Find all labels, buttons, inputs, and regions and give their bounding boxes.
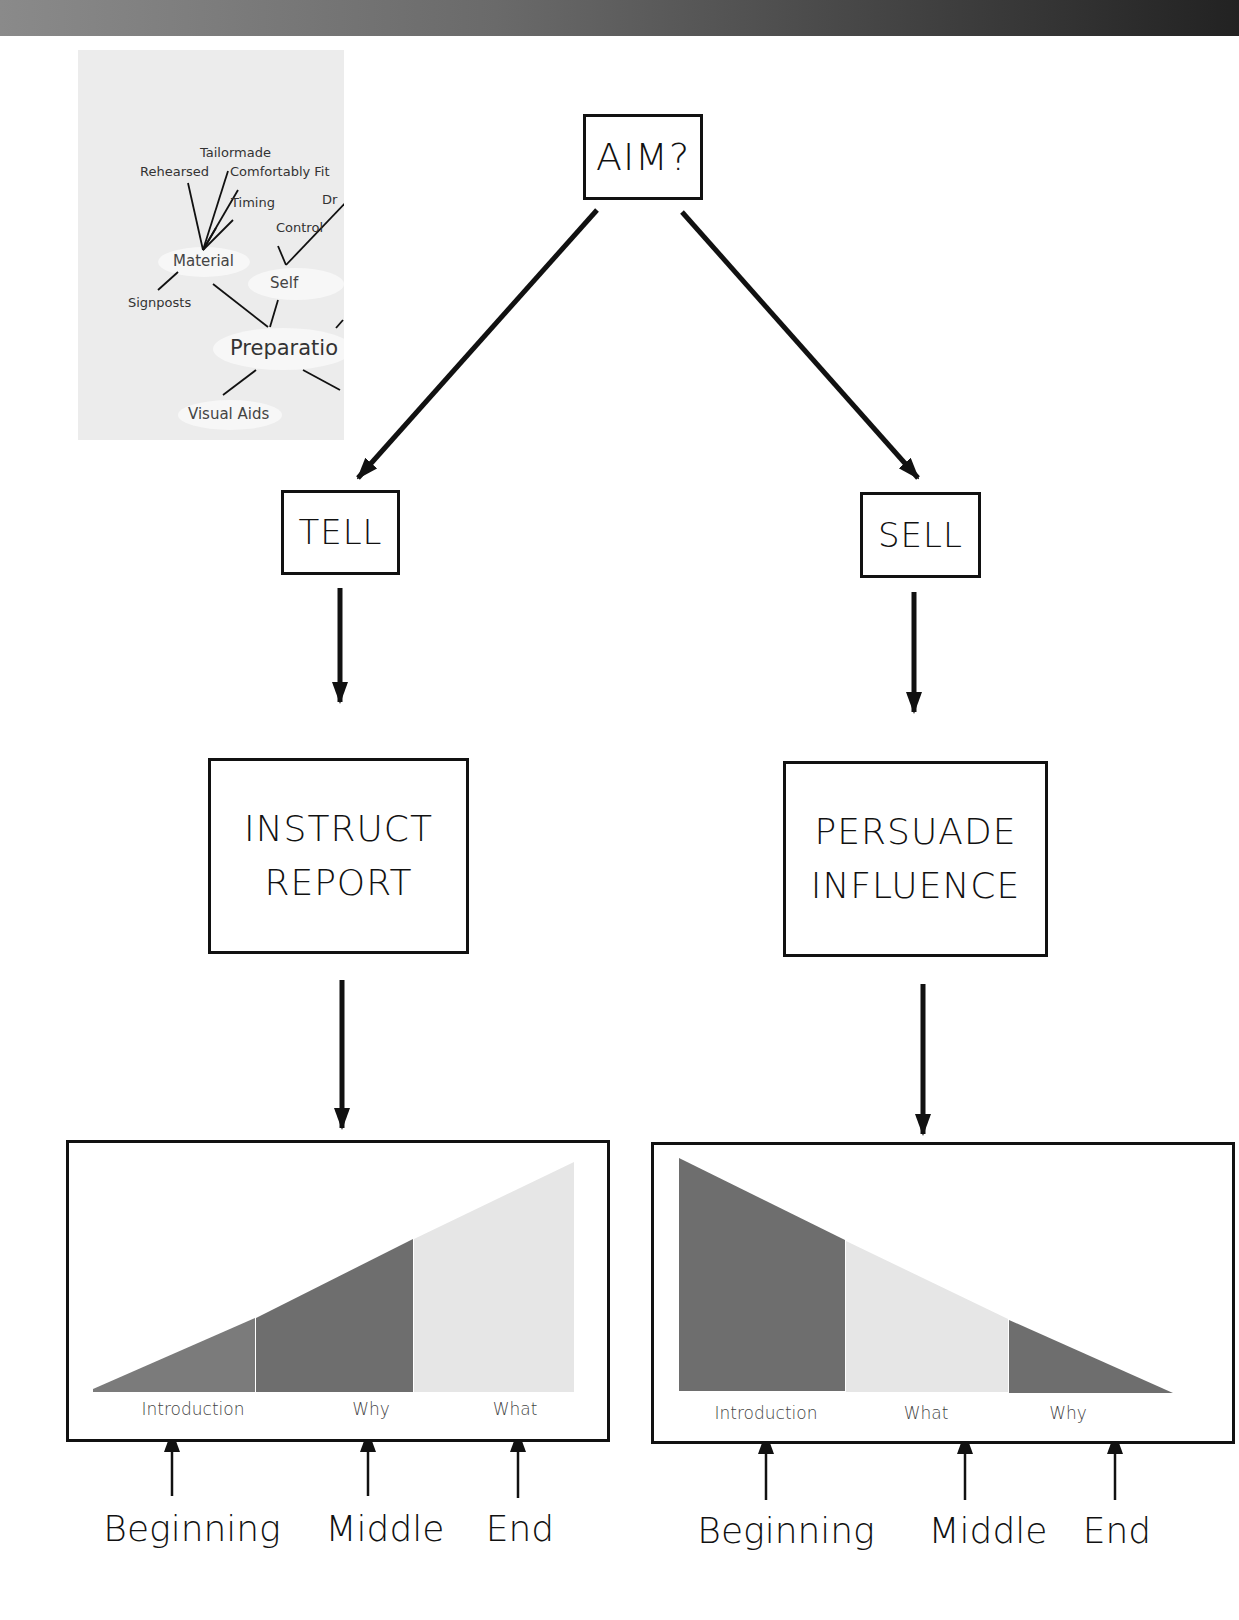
thumb-label-preparation: Preparatio: [230, 336, 338, 360]
mind-map-connectors: [78, 50, 344, 440]
tell-segment-introduction: [93, 1318, 255, 1392]
sell-segment-introduction: [679, 1158, 845, 1391]
sell-box: SELL: [860, 492, 981, 578]
aim-box: AIM?: [583, 114, 703, 200]
sell-structure-chart: Introduction What Why: [651, 1142, 1235, 1444]
influence-label: INFLUENCE: [811, 859, 1020, 913]
instruct-report-box: INSTRUCT REPORT: [208, 758, 469, 954]
arrow-aim-to-sell: [682, 212, 918, 478]
thumb-label-control: Control: [276, 220, 323, 235]
sell-wedge-graphic: [654, 1145, 1232, 1441]
thumb-label-timing: Timing: [231, 195, 275, 210]
thumb-label-material: Material: [173, 252, 234, 270]
report-label: REPORT: [264, 856, 412, 910]
tell-wedge-graphic: [69, 1143, 607, 1439]
mind-map-thumbnail: Tailormade Rehearsed Comfortably Fit Tim…: [78, 50, 344, 440]
thumb-label-dr: Dr: [322, 192, 337, 207]
persuade-label: PERSUADE: [815, 805, 1017, 859]
left-phase-end: End: [486, 1508, 554, 1549]
thumb-label-self: Self: [270, 274, 298, 292]
arrow-aim-to-tell: [358, 210, 597, 478]
persuade-influence-box: PERSUADE INFLUENCE: [783, 761, 1048, 957]
tell-structure-chart: Introduction Why What: [66, 1140, 610, 1442]
sell-segment-why: [1009, 1320, 1173, 1393]
right-phase-beginning: Beginning: [697, 1510, 874, 1551]
left-phase-beginning: Beginning: [103, 1508, 280, 1549]
tell-label: TELL: [298, 507, 382, 558]
thumb-label-visual-aids: Visual Aids: [188, 405, 269, 423]
sell-label: SELL: [878, 510, 963, 561]
thumb-label-tailormade: Tailormade: [200, 145, 271, 160]
thumb-label-comfortably-fit: Comfortably Fit: [230, 164, 330, 179]
tell-segment-what: [414, 1162, 574, 1392]
top-gradient-bar: [0, 0, 1239, 36]
right-phase-end: End: [1083, 1510, 1151, 1551]
sell-segment-what: [846, 1241, 1008, 1392]
sell-label-introduction: Introduction: [715, 1403, 818, 1423]
instruct-label: INSTRUCT: [244, 802, 433, 856]
thumb-label-rehearsed: Rehearsed: [140, 164, 209, 179]
right-phase-middle: Middle: [929, 1510, 1048, 1551]
tell-label-what: What: [493, 1399, 538, 1419]
tell-segment-why: [256, 1239, 413, 1392]
aim-label: AIM?: [596, 129, 690, 186]
tell-box: TELL: [281, 490, 400, 575]
tell-label-introduction: Introduction: [142, 1399, 245, 1419]
sell-label-what: What: [904, 1403, 949, 1423]
tell-label-why: Why: [352, 1399, 390, 1419]
thumb-label-signposts: Signposts: [128, 295, 191, 310]
sell-label-why: Why: [1049, 1403, 1087, 1423]
left-phase-middle: Middle: [326, 1508, 445, 1549]
